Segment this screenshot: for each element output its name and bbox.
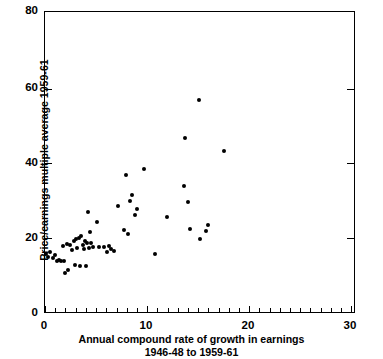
data-point	[79, 234, 83, 238]
data-point	[116, 204, 120, 208]
data-point	[62, 259, 66, 263]
x-tick-label-20: 20	[233, 320, 263, 332]
plot-area	[44, 11, 355, 313]
data-point	[53, 253, 57, 257]
data-point	[165, 215, 169, 219]
data-point	[130, 193, 134, 197]
data-point	[88, 230, 92, 234]
x-tick-label-10: 10	[131, 320, 161, 332]
data-point	[183, 136, 187, 140]
y-tick-label-60: 60	[4, 82, 38, 94]
data-point	[102, 245, 106, 249]
data-point	[75, 246, 79, 250]
data-point	[128, 199, 132, 203]
data-point	[66, 268, 70, 272]
x-axis-title-line2: 1946-48 to 1959-61	[0, 346, 383, 359]
scatter-plot-figure: 80 60 40 20 0 0 10 20 30	[0, 0, 383, 359]
data-point	[112, 249, 116, 253]
y-tick-label-40: 40	[4, 157, 38, 169]
data-point	[142, 167, 146, 171]
data-point	[95, 220, 99, 224]
data-point	[198, 237, 202, 241]
x-tick-label-0: 0	[29, 320, 59, 332]
x-axis-title-line1: Annual compound rate of growth in earnin…	[78, 333, 304, 345]
data-point	[153, 252, 157, 256]
data-point	[70, 248, 74, 252]
data-point	[78, 264, 82, 268]
data-point	[124, 173, 128, 177]
data-point	[126, 232, 130, 236]
data-point	[97, 245, 101, 249]
data-point	[186, 200, 190, 204]
x-tick-label-30: 30	[335, 320, 365, 332]
data-point	[86, 210, 90, 214]
y-axis-title: Price/earnings multiple average 1959-61	[38, 30, 50, 290]
x-axis-title: Annual compound rate of growth in earnin…	[0, 333, 383, 358]
data-point	[68, 243, 72, 247]
data-point	[188, 227, 192, 231]
y-tick-label-80: 80	[4, 5, 38, 17]
data-point	[82, 247, 86, 251]
data-point	[105, 250, 109, 254]
data-point	[91, 245, 95, 249]
data-point	[84, 264, 88, 268]
data-point	[204, 229, 208, 233]
data-point	[197, 98, 201, 102]
data-point	[182, 184, 186, 188]
data-point	[222, 149, 226, 153]
data-point	[206, 223, 210, 227]
data-point	[133, 213, 137, 217]
data-point	[135, 207, 139, 211]
y-tick-label-0: 0	[4, 307, 38, 319]
y-tick-label-20: 20	[4, 232, 38, 244]
data-point	[73, 263, 77, 267]
data-points-layer	[45, 12, 354, 312]
